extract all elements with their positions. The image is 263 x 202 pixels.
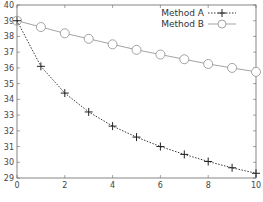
y-tick-label: 30 (4, 158, 14, 167)
data-point (61, 89, 69, 97)
data-point (84, 34, 93, 43)
data-point (204, 59, 213, 68)
data-point (180, 55, 189, 64)
y-tick-label: 33 (4, 111, 14, 120)
data-point (228, 164, 236, 172)
data-point (132, 45, 141, 54)
circle-marker-icon (218, 20, 226, 28)
x-tick-label: 10 (251, 181, 261, 190)
series-method-a (13, 17, 260, 178)
y-tick-label: 38 (4, 32, 14, 41)
legend-label-method-b: Method B (161, 19, 204, 29)
line-chart: 293031323334353637383940 0246810 Method … (0, 0, 263, 192)
x-tick-label: 0 (14, 181, 19, 190)
data-point (204, 157, 212, 165)
data-point (180, 150, 188, 158)
plus-marker-icon (218, 9, 226, 17)
data-point (85, 108, 93, 116)
y-tick-label: 31 (4, 143, 14, 152)
y-tick-label: 36 (4, 64, 14, 73)
y-tick-label: 40 (4, 1, 14, 10)
x-tick-label: 2 (62, 181, 67, 190)
y-tick-label: 37 (4, 48, 14, 57)
figure-caption (0, 192, 263, 202)
data-point (228, 63, 237, 72)
data-point (36, 23, 45, 32)
plot-area (17, 5, 256, 178)
data-point (108, 40, 117, 49)
x-tick-label: 8 (206, 181, 211, 190)
legend-label-method-a: Method A (161, 8, 205, 18)
data-point (156, 143, 164, 151)
data-point (252, 169, 260, 177)
x-tick-label: 4 (110, 181, 115, 190)
y-tick-label: 29 (4, 174, 14, 183)
data-point (109, 122, 117, 130)
legend: Method A Method B (161, 8, 236, 29)
y-tick-label: 32 (4, 127, 14, 136)
data-point (60, 29, 69, 38)
x-axis-ticks: 0246810 (14, 5, 261, 190)
data-point (156, 50, 165, 59)
y-tick-label: 35 (4, 80, 14, 89)
data-point (252, 67, 261, 76)
data-point (133, 133, 141, 141)
x-tick-label: 6 (158, 181, 163, 190)
y-tick-label: 34 (4, 95, 14, 104)
